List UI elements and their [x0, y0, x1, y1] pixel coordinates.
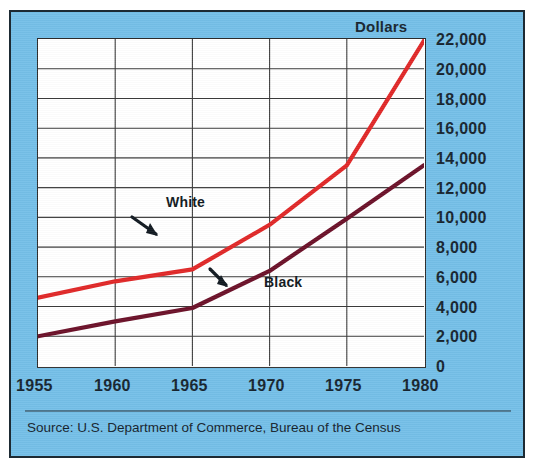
y-tick-10000: 10,000 [436, 210, 487, 226]
x-tick-1960: 1960 [94, 377, 131, 395]
plot-area [37, 38, 426, 368]
series-label-white: White [166, 194, 205, 210]
plot-svg [38, 39, 424, 366]
y-tick-20000: 20,000 [436, 62, 487, 78]
white-arrowhead [146, 223, 158, 236]
y-tick-6000: 6,000 [436, 270, 478, 286]
source-divider [25, 410, 511, 412]
y-tick-12000: 12,000 [436, 181, 487, 197]
series-line-white [38, 41, 424, 298]
x-tick-1975: 1975 [325, 377, 362, 395]
y-tick-4000: 4,000 [436, 300, 478, 316]
x-tick-1955: 1955 [16, 377, 53, 395]
y-tick-0: 0 [436, 359, 445, 375]
top-cut-text [0, 0, 539, 8]
y-tick-16000: 16,000 [436, 121, 487, 137]
y-tick-2000: 2,000 [436, 329, 478, 345]
y-tick-18000: 18,000 [436, 92, 487, 108]
chart-panel: Dollars [9, 10, 525, 458]
y-tick-14000: 14,000 [436, 151, 487, 167]
x-tick-1980: 1980 [402, 377, 439, 395]
x-tick-1965: 1965 [171, 377, 208, 395]
series-label-black: Black [264, 274, 302, 290]
x-tick-1970: 1970 [248, 377, 285, 395]
y-tick-8000: 8,000 [436, 240, 478, 256]
y-axis-title: Dollars [355, 18, 407, 35]
series-line-black [38, 165, 424, 336]
gridlines-horizontal [38, 69, 424, 337]
y-tick-22000: 22,000 [436, 32, 487, 48]
source-note: Source: U.S. Department of Commerce, Bur… [27, 420, 401, 435]
chart-figure: Dollars [0, 0, 539, 466]
